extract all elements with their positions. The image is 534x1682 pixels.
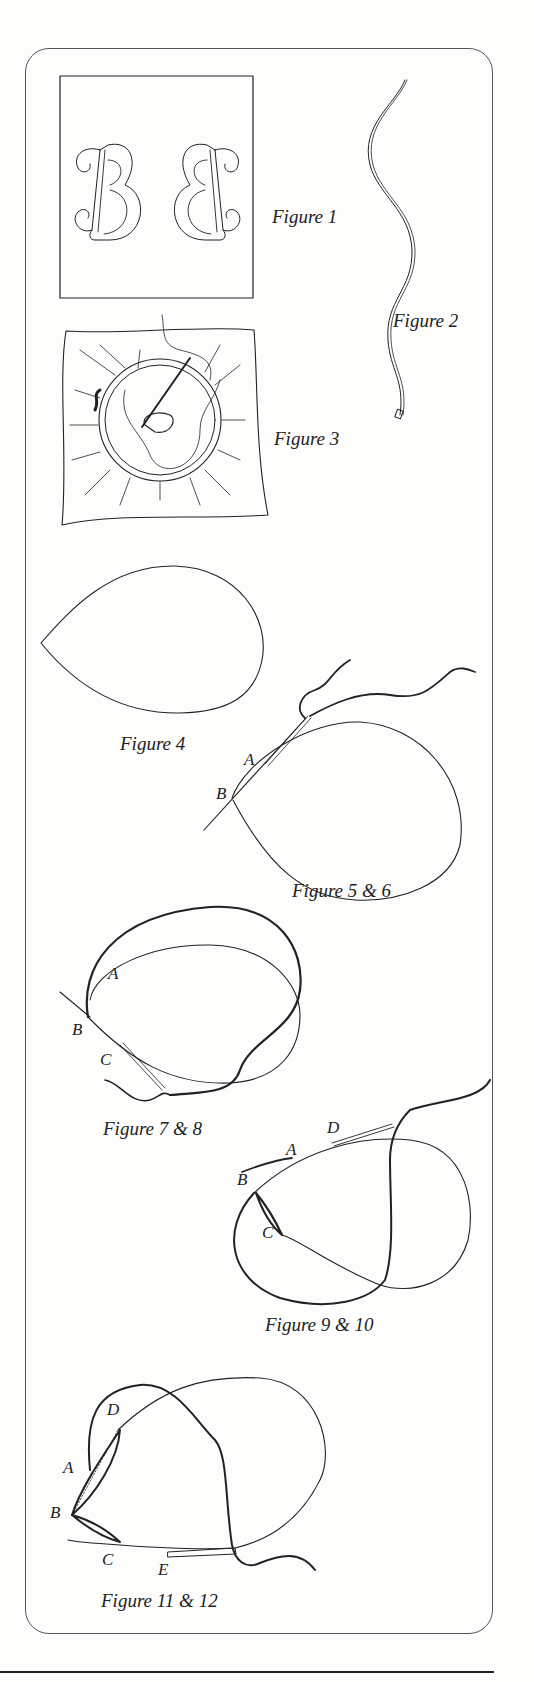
caption-figure-5-6: Figure 5 & 6 xyxy=(292,880,391,902)
figure-9-10-stitch xyxy=(234,1080,490,1304)
label-fig7-a: A xyxy=(108,964,118,984)
label-fig11-b: B xyxy=(50,1503,60,1523)
figure-3-hoop xyxy=(62,315,268,525)
figure-4-teardrop xyxy=(41,566,263,713)
label-fig11-e: E xyxy=(158,1560,168,1580)
label-fig7-b: B xyxy=(72,1020,82,1040)
label-fig9-c: C xyxy=(262,1223,273,1243)
label-fig9-d: D xyxy=(327,1118,339,1138)
label-fig11-c: C xyxy=(102,1550,113,1570)
label-fig9-b: B xyxy=(237,1170,247,1190)
label-fig11-a: A xyxy=(63,1458,73,1478)
page-divider-rule xyxy=(0,1671,494,1673)
caption-figure-3: Figure 3 xyxy=(274,428,339,450)
figure-1-monogram xyxy=(60,76,253,298)
figure-2-thread xyxy=(368,80,415,419)
figure-7-8-stitch xyxy=(60,907,301,1101)
label-fig7-c: C xyxy=(100,1050,111,1070)
caption-figure-4: Figure 4 xyxy=(120,733,185,755)
caption-figure-7-8: Figure 7 & 8 xyxy=(103,1118,202,1140)
label-fig5-b: B xyxy=(216,784,226,804)
caption-figure-11-12: Figure 11 & 12 xyxy=(101,1590,218,1612)
embroidery-illustrations xyxy=(0,0,534,1682)
label-fig5-a: A xyxy=(244,750,254,770)
label-fig9-a: A xyxy=(286,1140,296,1160)
caption-figure-2: Figure 2 xyxy=(393,310,458,332)
label-fig11-d: D xyxy=(107,1400,119,1420)
caption-figure-1: Figure 1 xyxy=(272,206,337,228)
figure-5-6-needle xyxy=(204,660,475,900)
caption-figure-9-10: Figure 9 & 10 xyxy=(265,1314,374,1336)
